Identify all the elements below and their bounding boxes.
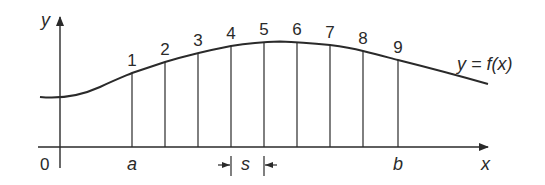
ordinate-label: 7 [325,23,334,42]
curve-label: y = f(x) [455,54,513,74]
ordinate-label: 8 [358,29,367,48]
interval-start-label: a [127,154,137,174]
interval-end-label: b [393,154,403,174]
ordinate-label: 5 [259,20,268,39]
ordinate-lines [132,42,398,147]
ordinate-labels: 123456789 [127,20,402,70]
y-axis-label: y [39,10,51,30]
spacing-label: s [241,154,250,174]
spacing-indicator: s [218,154,277,176]
origin-label: 0 [40,155,49,174]
ordinate-label: 4 [226,24,235,43]
x-axis-label: x [480,154,491,174]
ordinate-label: 1 [127,51,136,70]
ordinate-label: 2 [160,40,169,59]
ordinate-label: 9 [393,38,402,57]
trapezoid-rule-diagram: 123456789 y x 0 a b s y = f(x) [0,0,545,185]
ordinate-label: 3 [193,31,202,50]
ordinate-label: 6 [292,20,301,39]
